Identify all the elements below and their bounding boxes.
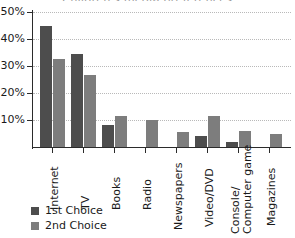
legend-swatch-icon-1st-choice: [31, 207, 39, 215]
y-tick-mark-50: [27, 12, 33, 13]
x-tick-mark-internet: [52, 148, 53, 153]
y-tick-label-30: 30%: [0, 59, 25, 72]
x-tick-mark-magazines: [269, 148, 270, 153]
x-label-newspapers: Newspapers: [173, 163, 184, 230]
y-tick-label-40: 40%: [0, 32, 25, 45]
bar-tv-2nd: [84, 75, 96, 147]
bar-newspapers-2nd: [177, 132, 189, 147]
bar-books-1st: [102, 125, 114, 147]
y-axis-line: [32, 10, 33, 149]
y-tick-mark-10: [27, 120, 33, 121]
x-label-newspapers-text: Newspapers: [172, 163, 185, 230]
x-label-video-dvd: Video/DVD: [204, 168, 215, 227]
legend-label-2nd-choice: 2nd Choice: [45, 219, 107, 232]
x-tick-mark-console: [238, 148, 239, 153]
x-label-video-dvd-text: Video/DVD: [203, 168, 216, 227]
x-label-books-text: Books: [110, 177, 123, 210]
bar-video-dvd-2nd: [208, 116, 220, 147]
y-tick-mark-30: [27, 66, 33, 67]
x-label-books: Books: [111, 177, 122, 210]
y-tick-label-10: 10%: [0, 113, 25, 126]
bar-internet-2nd: [53, 59, 65, 147]
y-tick-mark-20: [27, 93, 33, 94]
y-tick-label-20: 20%: [0, 86, 25, 99]
x-label-magazines: Magazines: [266, 168, 277, 226]
legend-swatch-icon-2nd-choice: [31, 222, 39, 230]
legend-item-1st-choice[interactable]: 1st Choice: [31, 203, 107, 218]
bar-radio-2nd: [146, 120, 158, 147]
bars-layer: [33, 12, 291, 147]
bar-internet-1st: [40, 26, 52, 148]
chart-legend: 1st Choice 2nd Choice: [31, 203, 107, 233]
x-tick-mark-newspapers: [176, 148, 177, 153]
legend-item-2nd-choice[interactable]: 2nd Choice: [31, 218, 107, 233]
x-tick-mark-books: [114, 148, 115, 153]
x-tick-mark-tv: [83, 148, 84, 153]
x-label-radio-text: Radio: [141, 179, 154, 210]
x-tick-mark-video-dvd: [207, 148, 208, 153]
x-label-console: Console/ Computer game: [230, 187, 241, 234]
bar-books-2nd: [115, 116, 127, 147]
bar-tv-1st: [71, 54, 83, 147]
y-tick-label-50: 50%: [0, 5, 25, 18]
x-label-radio: Radio: [142, 179, 153, 210]
y-tick-mark-40: [27, 39, 33, 40]
x-label-magazines-text: Magazines: [265, 168, 278, 226]
bar-video-dvd-1st: [195, 136, 207, 147]
chart-title: Children's media preferences: [0, 0, 295, 1]
x-tick-mark-radio: [145, 148, 146, 153]
legend-label-1st-choice: 1st Choice: [45, 204, 103, 217]
bar-chart: Children's media preferences 50%: [0, 0, 295, 238]
bar-magazines-2nd: [270, 134, 282, 148]
x-label-console-line2: Computer game: [242, 145, 253, 234]
